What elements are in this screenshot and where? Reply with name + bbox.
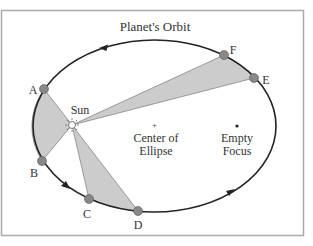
point-label-E: E: [262, 73, 269, 87]
point-label-B: B: [30, 166, 38, 180]
point-D: [134, 207, 143, 216]
point-F: [220, 51, 229, 60]
point-label-D: D: [134, 218, 143, 232]
orbit-title: Planet's Orbit: [120, 19, 191, 34]
point-label-C: C: [83, 207, 91, 221]
point-E: [250, 74, 259, 83]
point-label-A: A: [29, 83, 38, 97]
center-marker-icon: +: [152, 121, 157, 130]
focus-label-line1: Empty: [221, 131, 253, 145]
point-B: [38, 157, 47, 166]
point-A: [40, 85, 49, 94]
kepler-orbit-diagram: Planet's Orbit Sun + Center of Ellipse E…: [0, 0, 313, 246]
point-C: [85, 195, 94, 204]
point-label-F: F: [230, 43, 237, 57]
center-label-line2: Ellipse: [139, 144, 172, 158]
focus-label-line2: Focus: [223, 144, 252, 158]
center-label-line1: Center of: [134, 131, 179, 145]
sun-label: Sun: [71, 103, 90, 117]
empty-focus-dot: [235, 124, 238, 127]
